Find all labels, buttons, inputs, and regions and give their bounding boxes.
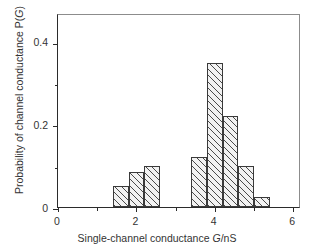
x-axis-tick bbox=[136, 207, 137, 212]
y-axis-title: Probability of channel conductance P(G) bbox=[13, 0, 25, 205]
histogram-bar bbox=[113, 186, 129, 207]
y-axis-tick bbox=[55, 168, 59, 169]
x-axis-tick bbox=[97, 207, 98, 211]
x-axis-tick bbox=[215, 207, 216, 212]
y-axis-title-suffix: ) bbox=[13, 6, 25, 10]
histogram-bar bbox=[238, 166, 254, 207]
histogram-bar bbox=[223, 116, 239, 207]
x-axis-tick bbox=[293, 207, 294, 212]
x-axis-tick-label: 4 bbox=[199, 216, 229, 227]
x-axis-title-suffix: /nS bbox=[221, 232, 237, 244]
x-axis-tick-label: 6 bbox=[277, 216, 307, 227]
x-axis-tick bbox=[58, 207, 59, 212]
x-axis-tick bbox=[254, 207, 255, 211]
y-axis-tick bbox=[55, 85, 59, 86]
y-axis-tick bbox=[53, 126, 58, 127]
x-axis-tick-label: 2 bbox=[120, 216, 150, 227]
histogram-figure: 024600.20.4 Single-channel conductance G… bbox=[0, 0, 314, 250]
y-axis-title-symbol: G bbox=[13, 10, 25, 18]
y-axis-tick bbox=[53, 44, 58, 45]
y-axis-tick bbox=[53, 209, 58, 210]
histogram-bar bbox=[144, 166, 160, 207]
x-axis-tick-label: 0 bbox=[42, 216, 72, 227]
y-axis-title-prefix: Probability of channel conductance P( bbox=[13, 18, 25, 194]
histogram-bar bbox=[207, 63, 223, 207]
x-axis-title: Single-channel conductance G/nS bbox=[0, 232, 314, 244]
x-axis-title-prefix: Single-channel conductance bbox=[78, 232, 213, 244]
histogram-bar bbox=[129, 172, 145, 207]
x-axis-tick bbox=[176, 207, 177, 211]
histogram-bar bbox=[191, 157, 207, 207]
plot-area bbox=[57, 14, 300, 208]
histogram-bar bbox=[254, 197, 270, 207]
x-axis-title-symbol: G bbox=[212, 232, 220, 244]
